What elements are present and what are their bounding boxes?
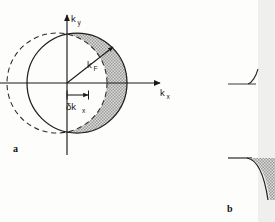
fermi-radius-label: k <box>87 59 92 70</box>
ky-axis-label: k <box>71 13 76 24</box>
kx-axis-label: k <box>160 87 165 98</box>
crescent-excess-region <box>0 0 275 222</box>
panel-a: k y k x k F δk x a <box>0 0 275 222</box>
displacement-label: δk <box>66 101 76 112</box>
panel-label-a: a <box>13 143 18 154</box>
figure-root: k y k x k F δk x a b <box>0 0 275 222</box>
fermi-radius-label-sub: F <box>94 65 98 72</box>
physics-figure-svg: k y k x k F δk x a b <box>0 0 275 222</box>
panel-label-b: b <box>227 203 233 214</box>
